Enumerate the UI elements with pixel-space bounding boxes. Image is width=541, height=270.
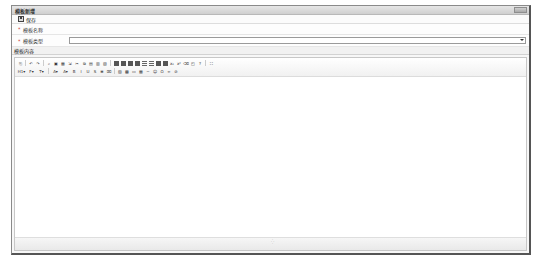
editor-content-area[interactable] (15, 78, 526, 237)
underline-icon[interactable]: U (85, 68, 91, 74)
toolbar-separator (25, 60, 26, 66)
align-justify-icon[interactable] (134, 60, 140, 66)
ordered-list-icon[interactable] (141, 60, 147, 66)
dialog-window: 模板新增 保存 * 模板名称 * 模板类型 模板内容 ⎘↶↷⌕▣▦⇲✂⧉▤▥▧x… (11, 5, 531, 255)
strikethrough-icon[interactable]: S (92, 68, 98, 74)
image-icon[interactable]: ▣ (53, 60, 59, 66)
horizontal-line-icon[interactable]: ─ (145, 68, 151, 74)
special-char-icon[interactable]: Ω (159, 68, 165, 74)
superscript-icon[interactable]: x² (176, 60, 182, 66)
help-icon[interactable]: ? (197, 60, 203, 66)
remove-format-icon[interactable]: ⌧ (106, 68, 112, 74)
save-button[interactable]: 保存 (18, 16, 36, 23)
type-select[interactable] (69, 37, 527, 44)
cut-icon[interactable]: ✂ (74, 60, 80, 66)
paste-text-icon[interactable]: ▥ (95, 60, 101, 66)
bold-icon[interactable]: B (71, 68, 77, 74)
paste-word-icon[interactable]: ▧ (102, 60, 108, 66)
type-label: 模板类型 (23, 37, 69, 44)
emoticon-icon[interactable]: ☺ (152, 68, 158, 74)
source-icon[interactable]: ⎘ (17, 60, 23, 66)
pagebreak-icon[interactable]: ⇲ (67, 60, 73, 66)
window-control-button[interactable] (514, 7, 527, 13)
toolbar-separator (205, 60, 206, 66)
align-left-icon[interactable] (113, 60, 119, 66)
unlink-icon[interactable]: ⊘ (173, 68, 179, 74)
redo-icon[interactable]: ↷ (35, 60, 41, 66)
action-bar: 保存 (12, 15, 529, 24)
insert-image-icon[interactable]: ▨ (117, 68, 123, 74)
content-header: 模板内容 (12, 47, 529, 55)
select-all-icon[interactable]: ◰ (190, 60, 196, 66)
resize-handle-icon[interactable]: ⁛ (271, 239, 275, 242)
copy-icon[interactable]: ⧉ (81, 60, 87, 66)
subscript-icon[interactable]: x₂ (169, 60, 175, 66)
paste-icon[interactable]: ▤ (88, 60, 94, 66)
toolbar-separator (110, 60, 111, 66)
editor-status-bar: ⁛ (15, 237, 526, 250)
fullscreen-icon[interactable]: ⛶ (208, 60, 214, 66)
name-label: 模板名称 (23, 26, 69, 33)
chevron-down-icon[interactable] (520, 39, 524, 41)
toolbar-separator (114, 68, 115, 74)
highlight-icon[interactable]: A▾ (61, 68, 70, 74)
toolbar-separator (48, 68, 49, 74)
title-bar[interactable]: 模板新增 (12, 6, 529, 15)
find-icon[interactable]: ⌕ (46, 60, 52, 66)
editor-toolbar-row-1: ⎘↶↷⌕▣▦⇲✂⧉▤▥▧x₂x²⌫◰?⛶ (17, 59, 524, 67)
align-right-icon[interactable] (127, 60, 133, 66)
unordered-list-icon[interactable] (148, 60, 154, 66)
required-mark: * (18, 26, 21, 32)
font-family-dropdown-icon[interactable]: F▾ (27, 68, 36, 74)
editor-toolbar: ⎘↶↷⌕▣▦⇲✂⧉▤▥▧x₂x²⌫◰?⛶ H1▾F▾T▾A▾A▾BIUS≡⌧▨▩… (15, 58, 526, 77)
save-icon (18, 16, 24, 22)
editor-toolbar-row-2: H1▾F▾T▾A▾A▾BIUS≡⌧▨▩▭▦─☺Ω∞⊘ (17, 67, 524, 75)
align-center-icon[interactable] (120, 60, 126, 66)
name-input[interactable] (69, 25, 530, 33)
insert-table-icon[interactable]: ▦ (138, 68, 144, 74)
required-mark: * (18, 38, 21, 44)
table-icon[interactable]: ▦ (60, 60, 66, 66)
insert-flash-icon[interactable]: ▩ (124, 68, 130, 74)
font-color-icon[interactable]: A▾ (51, 68, 60, 74)
link-icon[interactable]: ∞ (166, 68, 172, 74)
font-size-dropdown-icon[interactable]: T▾ (37, 68, 46, 74)
toolbar-separator (43, 60, 44, 66)
dialog-title: 模板新增 (15, 7, 35, 14)
heading-dropdown-icon[interactable]: H1▾ (17, 68, 26, 74)
clear-format-icon[interactable]: ⌫ (183, 60, 189, 66)
indent-icon[interactable] (155, 60, 161, 66)
italic-icon[interactable]: I (78, 68, 84, 74)
name-row: * 模板名称 (12, 24, 529, 35)
undo-icon[interactable]: ↶ (28, 60, 34, 66)
outdent-icon[interactable] (162, 60, 168, 66)
insert-media-icon[interactable]: ▭ (131, 68, 137, 74)
save-label: 保存 (26, 16, 36, 23)
rich-text-editor: ⎘↶↷⌕▣▦⇲✂⧉▤▥▧x₂x²⌫◰?⛶ H1▾F▾T▾A▾A▾BIUS≡⌧▨▩… (14, 57, 527, 251)
line-height-icon[interactable]: ≡ (99, 68, 105, 74)
type-row: * 模板类型 (12, 35, 529, 47)
